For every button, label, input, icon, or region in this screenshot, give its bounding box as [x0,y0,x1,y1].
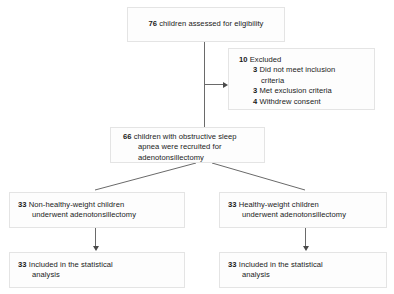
node-line: 33 Included in the statistical [228,260,386,270]
node-line-text: analysis [242,270,270,279]
node-line: adenotonsillectomy [123,153,264,163]
node-line: 33 Included in the statistical [18,260,184,270]
node-line-count: 3 [253,86,257,95]
node-line-text: Excluded [250,55,282,64]
node-line-text: Healthy-weight children [239,200,319,209]
node-included-statistical-analysis-right: 33 Included in the statistical analysis [219,252,387,288]
node-line-text: Withdrew consent [259,97,320,106]
node-line: underwent adenotonsillectomy [228,210,386,220]
node-line-count: 4 [253,97,257,106]
node-line: 66 children with obstructive sleep [123,132,264,142]
arrowhead-down-right-icon [303,246,309,251]
node-included-statistical-analysis-left: 33 Included in the statistical analysis [9,252,185,288]
node-line: 10 Excluded [239,55,374,65]
connector-to-excluded [204,84,224,85]
node-line-text: underwent adenotonsillectomy [242,210,346,219]
node-line-text: Did not meet inclusion [259,65,335,74]
flowchart-canvas: 76 children assessed for eligibility 10 … [0,0,394,294]
node-line-text: Included in the statistical [29,260,113,269]
connector-nonhealthy-to-included [95,228,96,247]
node-line-text: apnea were recruited for [138,142,222,151]
node-line-text: Included in the statistical [239,260,323,269]
node-line: 3 Met exclusion criteria [239,86,374,96]
node-non-healthy-weight-children: 33 Non-healthy-weight children underwent… [9,192,185,228]
node-line-count: 33 [18,200,27,209]
connector-healthy-to-included [305,228,306,247]
node-line-text: underwent adenotonsillectomy [32,210,136,219]
node-line-text: Non-healthy-weight children [29,200,124,209]
node-line-text: Met exclusion criteria [259,86,331,95]
node-line-text: criteria [261,76,284,85]
arrowhead-down-left-icon [93,246,99,251]
node-recruited-osa: 66 children with obstructive sleep apnea… [110,127,265,163]
node-line-count: 33 [18,260,27,269]
node-line-count: 33 [228,200,237,209]
node-line: underwent adenotonsillectomy [18,210,184,220]
node-healthy-weight-children: 33 Healthy-weight children underwent ade… [219,192,387,228]
node-line-text: adenotonsillectomy [138,153,204,162]
node-line: 4 Withdrew consent [239,97,374,107]
node-line-count: 66 [123,132,132,141]
node-line-count: 76 [149,19,158,28]
node-line-text: children assessed for eligibility [159,19,263,28]
node-line: 33 Healthy-weight children [228,200,386,210]
node-line: 76 children assessed for eligibility [128,19,284,29]
node-excluded: 10 Excluded 3 Did not meet inclusion cri… [228,48,375,110]
node-line-count: 3 [253,65,257,74]
node-line: 33 Non-healthy-weight children [18,200,184,210]
node-line: analysis [228,270,386,280]
node-line-text: analysis [32,270,60,279]
node-line: apnea were recruited for [123,142,264,152]
node-line-count: 33 [228,260,237,269]
node-line: criteria [239,76,374,86]
node-assessed-for-eligibility: 76 children assessed for eligibility [127,7,285,42]
node-line: 3 Did not meet inclusion [239,65,374,75]
node-line-count: 10 [239,55,248,64]
node-line-text: children with obstructive sleep [134,132,237,141]
node-line: analysis [18,270,184,280]
